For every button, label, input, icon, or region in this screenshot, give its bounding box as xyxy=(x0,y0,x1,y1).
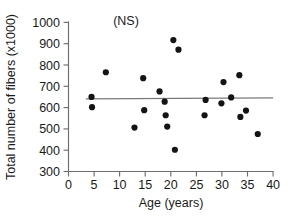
x-axis-ticks xyxy=(69,172,274,177)
data-point xyxy=(88,94,94,100)
data-point xyxy=(228,94,234,100)
data-point xyxy=(220,79,226,85)
x-tick-label-30: 30 xyxy=(215,178,229,192)
x-tick-label-35: 35 xyxy=(241,178,255,192)
scatter-points-group xyxy=(88,37,260,153)
y-tick-label-500: 500 xyxy=(39,122,60,136)
data-point xyxy=(255,131,261,137)
x-tick-label-0: 0 xyxy=(65,178,72,192)
y-tick-label-700: 700 xyxy=(39,80,60,94)
y-tick-label-600: 600 xyxy=(39,101,60,115)
y-tick-label-400: 400 xyxy=(39,144,60,158)
scatter-plot-figure: Total number of fibers (x1000) 300 400 5… xyxy=(0,0,293,217)
data-point xyxy=(202,97,208,103)
data-point xyxy=(243,107,249,113)
y-axis-tick-labels: 300 400 500 600 700 800 900 1000 xyxy=(32,16,60,179)
data-point xyxy=(175,47,181,53)
x-tick-label-40: 40 xyxy=(266,178,280,192)
y-tick-label-900: 900 xyxy=(39,37,60,51)
y-axis-ticks xyxy=(64,22,69,171)
data-point xyxy=(162,99,168,105)
data-point xyxy=(237,114,243,120)
x-tick-label-20: 20 xyxy=(164,178,178,192)
regression-trend-line xyxy=(86,98,273,99)
data-point xyxy=(170,37,176,43)
data-point xyxy=(103,69,109,75)
data-point xyxy=(164,123,170,129)
x-tick-label-10: 10 xyxy=(113,178,127,192)
x-tick-label-15: 15 xyxy=(138,178,152,192)
x-tick-label-25: 25 xyxy=(189,178,203,192)
y-tick-label-1000: 1000 xyxy=(32,16,60,30)
data-point xyxy=(141,107,147,113)
x-axis-title: Age (years) xyxy=(139,196,204,210)
data-point xyxy=(163,112,169,118)
data-point xyxy=(156,88,162,94)
data-point xyxy=(201,112,207,118)
x-axis-tick-labels: 0 5 10 15 20 25 30 35 40 xyxy=(65,178,280,192)
data-point xyxy=(89,104,95,110)
data-point xyxy=(218,100,224,106)
x-tick-label-5: 5 xyxy=(91,178,98,192)
y-axis-title: Total number of fibers (x1000) xyxy=(4,14,18,180)
data-point xyxy=(131,125,137,131)
significance-annotation: (NS) xyxy=(113,14,139,28)
y-tick-label-800: 800 xyxy=(39,59,60,73)
y-tick-label-300: 300 xyxy=(39,165,60,179)
data-point xyxy=(172,147,178,153)
data-point xyxy=(140,75,146,81)
plot-canvas: Total number of fibers (x1000) 300 400 5… xyxy=(0,0,293,217)
data-point xyxy=(236,72,242,78)
